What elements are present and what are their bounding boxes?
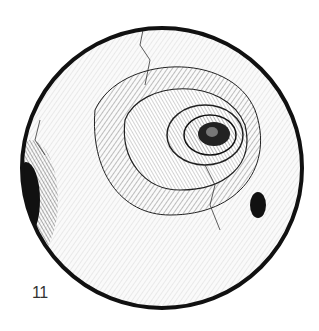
- vignette-content: [0, 0, 319, 331]
- engraving-illustration: [0, 0, 319, 331]
- plate-number: 11: [32, 284, 48, 302]
